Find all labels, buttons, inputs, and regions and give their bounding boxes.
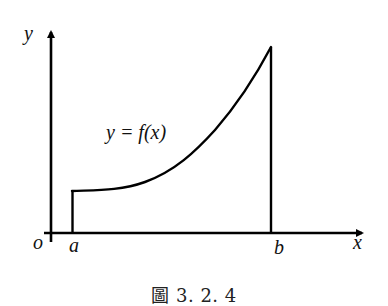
figure-caption: 圖 3. 2. 4 <box>0 281 388 306</box>
tick-label-b: b <box>274 236 284 258</box>
origin-label: o <box>33 231 43 253</box>
x-axis-label: x <box>352 231 362 253</box>
integral-area-figure: y o a b x y = f(x) 圖 3. 2. 4 <box>0 0 388 306</box>
diagram-canvas: y o a b x y = f(x) <box>0 0 388 306</box>
y-axis-label: y <box>22 22 33 45</box>
function-curve <box>72 47 271 191</box>
function-label: y = f(x) <box>104 121 166 144</box>
tick-label-a: a <box>69 234 79 256</box>
